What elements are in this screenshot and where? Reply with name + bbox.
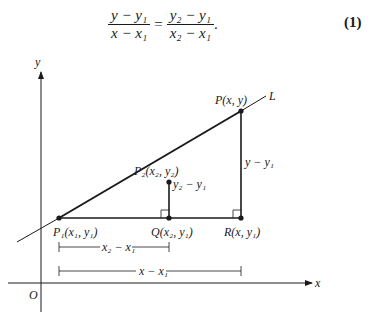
label-q: Q(x₂, y₁) — [151, 225, 193, 239]
label-p1: P₁(x₁, y₁) — [52, 225, 98, 239]
label-run-large: x − x₁ — [138, 264, 168, 278]
point-p — [238, 108, 243, 113]
label-p2: P₂(x₂, y₂) — [133, 164, 179, 178]
point-q — [166, 215, 171, 220]
line-l-label: L — [268, 89, 276, 103]
point-p1 — [56, 215, 61, 220]
label-run-small: x₂ − x₁ — [101, 240, 135, 254]
point-p2 — [166, 179, 171, 184]
y-axis-label: y — [34, 55, 41, 69]
x-axis-label: x — [314, 276, 321, 290]
slope-diagram: y x O L P₁(x₁, y₁) P₂(x₂, y₂) P(x, y) Q(… — [0, 0, 373, 327]
label-rise-large: y − y₁ — [244, 155, 274, 169]
label-r: R(x, y₁) — [223, 225, 260, 239]
label-p: P(x, y) — [214, 93, 247, 107]
origin-label: O — [29, 288, 38, 302]
point-r — [238, 215, 243, 220]
label-rise-small: y₂ − y₁ — [172, 177, 206, 191]
